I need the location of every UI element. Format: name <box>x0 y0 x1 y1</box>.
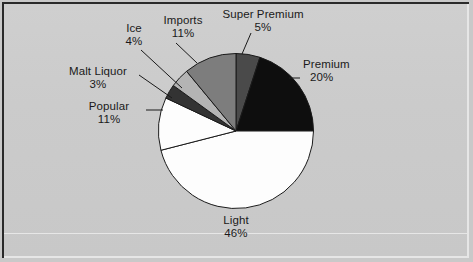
leader-line-ice <box>141 50 182 88</box>
slice-label-ice-value: 4% <box>112 35 156 48</box>
slice-label-ice: Ice 4% <box>112 22 156 48</box>
slice-label-light-value: 46% <box>186 227 286 240</box>
pie-chart-figure: Super Premium 5% Premium 20% Light 46% P… <box>0 0 473 262</box>
slice-label-super-premium: Super Premium 5% <box>214 8 312 34</box>
slice-label-imports-name: Imports <box>152 14 214 27</box>
leader-line-imports <box>176 43 197 63</box>
leader-line-super-premium <box>242 33 251 54</box>
slice-label-popular-name: Popular <box>74 100 144 113</box>
slice-label-ice-name: Ice <box>112 22 156 35</box>
slice-label-malt-liquor-value: 3% <box>56 78 140 91</box>
slice-label-imports: Imports 11% <box>152 14 214 40</box>
slice-label-premium-value: 20% <box>303 71 393 84</box>
pie-slices <box>158 54 313 209</box>
leader-line-malt-liquor <box>139 75 172 98</box>
slice-label-premium: Premium 20% <box>303 58 393 84</box>
slice-label-popular-value: 11% <box>74 113 144 126</box>
slice-label-super-premium-value: 5% <box>214 21 312 34</box>
slice-label-malt-liquor: Malt Liquor 3% <box>56 65 140 91</box>
slice-label-popular: Popular 11% <box>74 100 144 126</box>
slice-label-super-premium-name: Super Premium <box>214 8 312 21</box>
slice-label-malt-liquor-name: Malt Liquor <box>56 65 140 78</box>
slice-label-light-name: Light <box>186 214 286 227</box>
slice-label-imports-value: 11% <box>152 27 214 40</box>
slice-label-premium-name: Premium <box>303 58 393 71</box>
slice-label-light: Light 46% <box>186 214 286 240</box>
